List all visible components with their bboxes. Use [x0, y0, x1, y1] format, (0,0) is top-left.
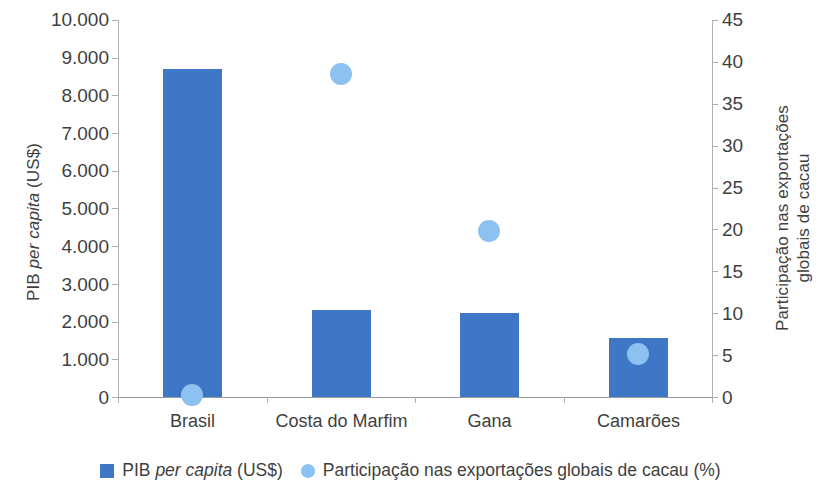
y-tick-label: 10.000 [5, 9, 109, 31]
bar-gana[interactable] [460, 313, 519, 397]
y-axis-line [118, 20, 119, 398]
y2-tick-mark [712, 146, 718, 147]
y2-tick-mark [712, 20, 718, 21]
dot-costa-do-marfim[interactable] [330, 63, 352, 85]
x-tick-label-costa-do-marfim: Costa do Marfim [267, 411, 416, 432]
plot-area [118, 20, 713, 397]
y2-tick-label: 0 [722, 387, 782, 409]
x-tick-mark [712, 397, 713, 403]
y-tick-label: 0 [5, 387, 109, 409]
y-tick-mark [112, 208, 118, 209]
y-tick-label: 5.000 [5, 198, 109, 220]
y-tick-mark [112, 246, 118, 247]
y-tick-mark [112, 284, 118, 285]
circle-swatch-icon [301, 464, 315, 478]
y2-tick-label: 45 [722, 9, 782, 31]
x-tick-mark [415, 397, 416, 403]
dot-brasil[interactable] [181, 384, 203, 406]
x-tick-mark [267, 397, 268, 403]
y-tick-mark [112, 359, 118, 360]
y-tick-mark [112, 95, 118, 96]
square-swatch-icon [100, 464, 114, 478]
y2-tick-label: 15 [722, 261, 782, 283]
y-tick-mark [112, 133, 118, 134]
legend-label-participacao: Participação nas exportações globais de … [323, 460, 721, 481]
y2-tick-mark [712, 188, 718, 189]
x-tick-mark [564, 397, 565, 403]
y-tick-label: 4.000 [5, 236, 109, 258]
y2-tick-label: 10 [722, 303, 782, 325]
y-tick-label: 3.000 [5, 274, 109, 296]
y2-tick-label: 20 [722, 219, 782, 241]
y2-tick-label: 40 [722, 51, 782, 73]
y-tick-mark [112, 58, 118, 59]
chart-legend: PIB per capita (US$) Participação nas ex… [0, 460, 821, 481]
y-tick-mark [112, 322, 118, 323]
y-tick-label: 2.000 [5, 311, 109, 333]
y-tick-label: 9.000 [5, 47, 109, 69]
y2-tick-mark [712, 313, 718, 314]
legend-label-pib: PIB per capita (US$) [122, 460, 283, 481]
y-tick-label: 6.000 [5, 160, 109, 182]
y2-tick-label: 5 [722, 345, 782, 367]
y2-tick-mark [712, 355, 718, 356]
y2-tick-mark [712, 229, 718, 230]
bar-costa-do-marfim[interactable] [312, 310, 371, 397]
y2-tick-mark [712, 104, 718, 105]
chart-container: PIB per capita (US$) Participação nas ex… [0, 0, 821, 488]
y-tick-label: 1.000 [5, 349, 109, 371]
legend-item-participacao[interactable]: Participação nas exportações globais de … [301, 460, 721, 481]
bar-brasil[interactable] [163, 69, 222, 397]
legend-item-pib[interactable]: PIB per capita (US$) [100, 460, 283, 481]
y-tick-label: 8.000 [5, 85, 109, 107]
y2-tick-label: 35 [722, 93, 782, 115]
x-tick-label-camaroes: Camarões [564, 411, 713, 432]
y2-tick-mark [712, 271, 718, 272]
y-tick-mark [112, 171, 118, 172]
y-tick-label: 7.000 [5, 123, 109, 145]
x-tick-label-gana: Gana [415, 411, 564, 432]
y2-tick-label: 30 [722, 135, 782, 157]
y2-tick-label: 25 [722, 177, 782, 199]
x-tick-label-brasil: Brasil [118, 411, 267, 432]
y2-axis-title-line2: globais de cacau [794, 153, 813, 282]
y2-axis-line [712, 20, 713, 398]
y2-tick-mark [712, 62, 718, 63]
y-tick-mark [112, 20, 118, 21]
x-tick-mark [118, 397, 119, 403]
dot-gana[interactable] [478, 220, 500, 242]
